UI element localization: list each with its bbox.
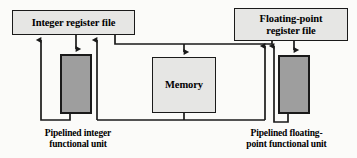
integer-register-file-label: Integer register file — [32, 17, 116, 29]
floating-point-register-file-box[interactable]: Floating-point register file — [234, 8, 348, 41]
datapath-diagram: Integer register file Floating-point reg… — [0, 0, 357, 158]
integer-functional-unit-caption: Pipelined integer functional unit — [8, 128, 148, 150]
memory-label: Memory — [165, 79, 203, 91]
fp-regfile-label-line1: Floating-point — [260, 13, 323, 24]
integer-caption-line2: functional unit — [49, 139, 107, 149]
integer-caption-line1: Pipelined integer — [45, 128, 111, 138]
fp-caption-line2: point functional unit — [246, 139, 326, 149]
floating-point-functional-unit-caption: Pipelined floating- point functional uni… — [216, 128, 357, 150]
pipelined-integer-functional-unit-box[interactable] — [60, 54, 92, 114]
floating-point-register-file-label: Floating-point register file — [260, 13, 323, 37]
fp-regfile-label-line2: register file — [266, 25, 315, 36]
pipelined-floating-point-functional-unit-box[interactable] — [278, 55, 310, 114]
memory-box[interactable]: Memory — [152, 57, 216, 113]
integer-register-file-box[interactable]: Integer register file — [12, 10, 135, 35]
fp-caption-line1: Pipelined floating- — [251, 128, 323, 138]
